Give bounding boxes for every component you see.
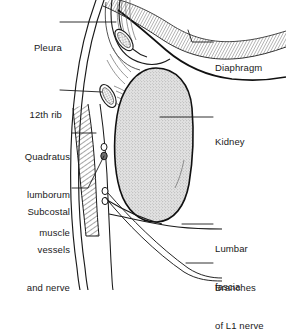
leader-twelfth-rib [60,90,102,92]
label-subcostal-line-1: vessels [0,244,70,257]
label-diaphragm-line-0: Diaphragm [215,62,285,75]
label-subcostal-line-2: and nerve [0,282,70,295]
label-subcostal-line-0: Subcostal [0,206,70,219]
label-branches-l1-line-1: of L1 nerve [215,320,287,333]
kidney [115,68,193,222]
label-diaphragm: Diaphragm [215,37,285,100]
label-subcostal-vessels-and-nerve: Subcostal vessels and nerve [0,181,70,320]
label-pleura-line-0: Pleura [8,42,62,55]
label-branches-of-l1-nerve: Branches of L1 nerve [215,257,287,333]
subcostal-vessels-and-nerve [101,143,107,159]
label-quadratus-line-0: Quadratus [0,151,70,164]
label-12th-rib-line-0: 12th rib [8,109,62,122]
label-pleura: Pleura [8,17,62,80]
label-branches-l1-line-0: Branches [215,282,287,295]
label-lumbar-fascia-line-0: Lumbar [215,243,285,256]
label-kidney: Kidney [215,111,285,174]
label-kidney-line-0: Kidney [215,136,285,149]
